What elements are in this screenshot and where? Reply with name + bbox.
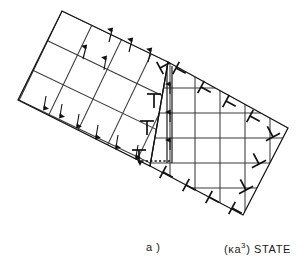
figure-root: a ) (κa3) STATE — [0, 0, 306, 269]
dislocation-rot-T-upper — [173, 62, 189, 80]
rotated-lattice — [0, 0, 229, 260]
dislocation-rot-T-top — [157, 57, 173, 75]
dislocation-T-1 — [147, 94, 161, 108]
straight-lattice — [140, 50, 300, 230]
lattice-diagram-svg — [0, 0, 306, 269]
state-label-suffix: ) STATE — [246, 243, 291, 255]
panel-label: a ) — [146, 241, 161, 253]
dislocation-T-3 — [132, 150, 146, 163]
dislocation-rot-T-b — [223, 95, 239, 113]
state-label: (κa3) STATE — [224, 241, 291, 255]
dislocation-upper-boundary-symbols — [157, 57, 263, 128]
dislocation-lower-boundary-symbols — [160, 166, 245, 220]
dislocation-perp-2 — [246, 150, 266, 168]
dislocation-rot-T-lower-c — [229, 202, 245, 220]
dislocation-perp-3 — [233, 176, 253, 194]
dislocation-rot-T-lowerleft — [160, 166, 176, 184]
